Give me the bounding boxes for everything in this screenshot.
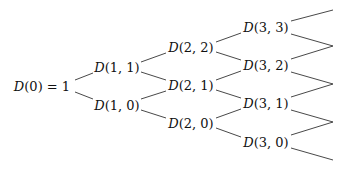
edge-d10-to-d21 — [141, 91, 166, 99]
node-func: D — [243, 135, 253, 150]
node-args: (3, 3) — [254, 20, 289, 35]
node-func: D — [243, 96, 253, 111]
node-args: (1, 1) — [105, 60, 140, 75]
node-d20: D(2, 0) — [168, 117, 213, 130]
node-args: (3, 2) — [254, 58, 289, 73]
node-args: (3, 1) — [254, 96, 289, 111]
node-d21: D(2, 1) — [168, 79, 213, 92]
edge-d32-up — [291, 46, 333, 59]
node-args: (2, 0) — [179, 116, 214, 131]
node-root-suffix: = 1 — [43, 79, 70, 94]
node-root-func: D — [14, 79, 24, 94]
edge-d11-to-d21 — [141, 72, 166, 80]
edge-d11-to-d22 — [141, 53, 166, 62]
node-d10: D(1, 0) — [94, 99, 139, 112]
edge-d31-down — [291, 110, 333, 122]
node-args: (1, 0) — [105, 98, 140, 113]
node-func: D — [168, 40, 178, 55]
node-d22: D(2, 2) — [168, 41, 213, 54]
node-args: (3, 0) — [254, 135, 289, 150]
node-func: D — [94, 98, 104, 113]
node-func: D — [243, 58, 253, 73]
node-func: D — [243, 20, 253, 35]
edge-d20-to-d30 — [216, 128, 241, 137]
node-d31: D(3, 1) — [243, 97, 288, 110]
edge-d20-to-d31 — [216, 109, 241, 118]
edge-d21-to-d31 — [216, 90, 241, 98]
edge-d22-to-d32 — [216, 52, 241, 60]
node-func: D — [94, 60, 104, 75]
node-d32: D(3, 2) — [243, 59, 288, 72]
edge-d33-down — [291, 34, 333, 46]
edge-d30-down — [291, 148, 333, 160]
edge-d33-up — [291, 10, 333, 21]
node-root-args: (0) — [24, 79, 42, 94]
node-d33: D(3, 3) — [243, 21, 288, 34]
edge-root-to-d10 — [75, 92, 93, 99]
node-args: (2, 2) — [179, 40, 214, 55]
node-args: (2, 1) — [179, 78, 214, 93]
node-d11: D(1, 1) — [94, 61, 139, 74]
node-root: D(0) = 1 — [14, 80, 70, 93]
node-d30: D(3, 0) — [243, 136, 288, 149]
edge-d10-to-d20 — [141, 110, 166, 118]
node-func: D — [168, 116, 178, 131]
edge-root-to-d11 — [75, 73, 93, 80]
edge-d30-up — [291, 122, 333, 135]
node-func: D — [168, 78, 178, 93]
edge-d32-down — [291, 72, 333, 84]
edge-d31-up — [291, 84, 333, 97]
edge-d22-to-d33 — [216, 33, 241, 42]
edge-d21-to-d32 — [216, 71, 241, 80]
